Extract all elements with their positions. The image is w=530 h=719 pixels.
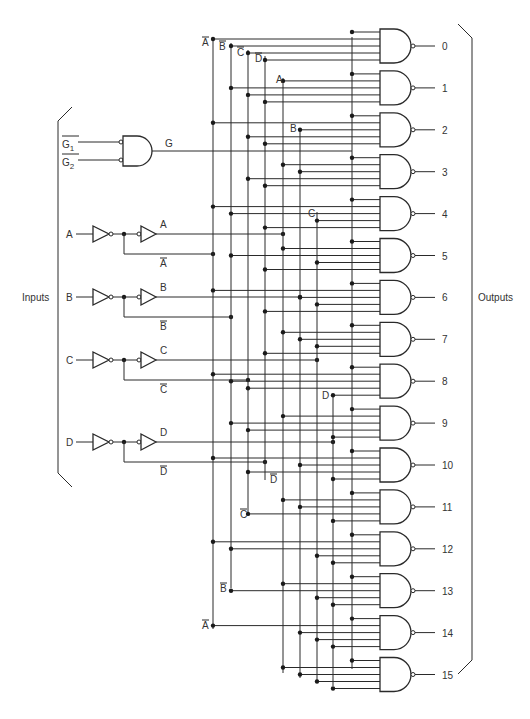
input-c-label: C [66,355,73,366]
output-label-11: 11 [442,502,453,513]
nand-gate-icon [380,197,411,231]
true-output-label: D [160,427,167,438]
nand-gate-12: 12 [211,532,454,566]
nand-gate-5: 5 [229,239,448,273]
output-label-6: 6 [442,292,448,303]
output-label-15: 15 [442,670,454,681]
input-a-label: A [66,229,73,240]
nand-gate-14: 14 [211,616,454,650]
bus-label: D [255,53,262,64]
nand-gate-2: 2 [211,113,448,147]
inverter-icon [93,226,109,242]
nand-gate-icon [380,490,411,524]
inverter-icon [93,434,109,450]
bus-label: B [290,123,297,134]
nand-gate-icon [380,616,411,650]
input-b-label: B [66,292,73,303]
nand-gate-icon [380,574,411,608]
outputs-bracket [458,24,472,674]
nand-gate-1: 1 [229,71,448,105]
nand-gate-8: 8 [211,364,448,398]
inverter-icon [93,289,109,305]
nand-gate-icon [380,113,411,147]
nand-gate-icon [380,448,411,482]
nand-gate-11: 11 [246,490,453,524]
comp-output-label: B [160,321,167,332]
input-buffers: AAABBBCCCDDD [66,219,335,477]
output-label-0: 0 [442,41,448,52]
output-label-13: 13 [442,586,454,597]
bus-label: A [202,37,209,48]
true-output-label: C [160,345,167,356]
input-c-buffer: CCC [66,345,319,395]
nand-gate-icon [380,322,411,356]
nand-gate-icon [380,29,411,63]
decoder-logic-diagram: Inputs Outputs G1 G2 G AAABBBCCCDDD 0123… [0,0,530,719]
nand-gate-15: 15 [281,658,454,692]
output-label-5: 5 [442,251,448,262]
nand-gate-icon [380,658,411,692]
bus-label: A [276,74,283,85]
input-d-label: D [66,437,73,448]
inverter-icon [141,226,156,242]
input-d-buffer: DDD [66,427,335,477]
output-label-14: 14 [442,628,454,639]
output-label-10: 10 [442,460,454,471]
nand-gate-icon [380,280,411,314]
nand-gate-10: 10 [211,448,454,482]
output-label-1: 1 [442,83,448,94]
comp-output-label: C [160,384,167,395]
g-output-label: G [165,138,173,149]
inverter-icon [141,434,156,450]
enable-gate-group: G1 G2 G [62,136,352,171]
bus-lines [213,37,352,686]
input-a-buffer: AAA [66,219,285,269]
nand-gate-icon [380,71,411,105]
nand-gate-icon [380,239,411,273]
output-label-8: 8 [442,376,448,387]
bus-label: C [308,208,315,219]
input-b-buffer: BBB [66,282,302,332]
inverter-icon [93,352,109,368]
nand-gate-icon [380,406,411,440]
inverter-icon [141,352,156,368]
true-output-label: B [160,282,167,293]
output-label-3: 3 [442,167,448,178]
g1-label: G1 [62,139,75,153]
nand-gate-13: 13 [229,574,454,608]
bus-label: C [240,509,247,520]
bus-label: A [202,620,209,631]
output-label-2: 2 [442,125,448,136]
bus-label: C [237,47,244,58]
nand-gate-0: 0 [211,29,448,63]
bus-label: D [322,390,329,401]
outputs-label: Outputs [478,292,513,303]
enable-and-gate [123,136,152,166]
comp-output-label: D [160,466,167,477]
true-output-label: A [160,219,167,230]
bus-label: D [270,474,277,485]
inputs-label: Inputs [22,292,49,303]
output-label-12: 12 [442,544,454,555]
nand-gate-7: 7 [263,322,448,356]
output-label-4: 4 [442,209,448,220]
nand-gate-icon [380,155,411,189]
nand-gate-icon [380,364,411,398]
bus-label: B [220,583,227,594]
nand-gate-9: 9 [229,406,448,440]
output-label-7: 7 [442,334,448,345]
output-label-9: 9 [442,418,448,429]
bus-label: B [219,41,226,52]
nand-gate-4: 4 [211,197,448,231]
inverter-icon [141,289,156,305]
diagram-canvas: Inputs Outputs G1 G2 G AAABBBCCCDDD 0123… [0,0,530,719]
nand-gate-icon [380,532,411,566]
comp-output-label: A [160,258,167,269]
g2-label: G2 [62,157,75,171]
nand-gate-3: 3 [246,155,448,189]
